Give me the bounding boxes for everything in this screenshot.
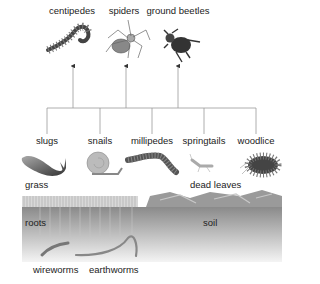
label-snails: snails [88,135,112,146]
food-web-links [47,66,256,134]
label-wireworms: wireworms [33,264,78,275]
label-millipedes: millipedes [131,135,173,146]
millipede-icon [128,155,176,172]
label-roots: roots [25,217,46,228]
label-spiders: spiders [109,5,140,16]
label-dead-leaves: dead leaves [190,179,241,190]
woodlouse-icon [240,156,278,174]
centipede-icon [48,27,88,50]
soil-layer [22,207,282,262]
label-centipedes: centipedes [49,5,95,16]
label-soil: soil [203,217,217,228]
grass-icon [22,196,138,207]
springtail-icon [190,154,212,172]
dead-leaves-icon [146,190,282,207]
label-springtails: springtails [183,135,226,146]
snail-icon [87,152,122,174]
slug-icon [22,156,66,176]
label-grass: grass [25,179,48,190]
label-earthworms: earthworms [89,264,139,275]
ground-beetle-icon [164,29,200,62]
label-ground-beetles: ground beetles [147,5,210,16]
label-woodlice: woodlice [238,135,275,146]
spider-icon [106,20,150,58]
label-slugs: slugs [36,135,58,146]
